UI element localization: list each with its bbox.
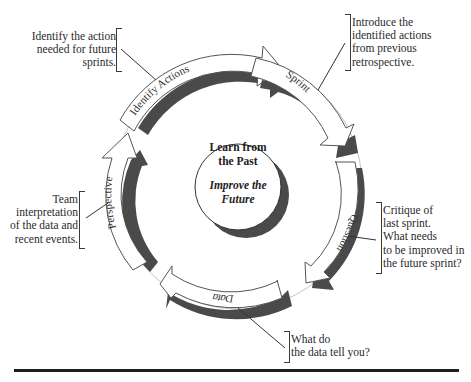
stage-arrow-question: Question [305,162,365,290]
leader-line-sprint [318,43,345,90]
bracket-perspective [79,191,85,249]
stage-arrow-identify-actions: Identify Actions [120,46,292,135]
callout-perspective: Team interpretation of the data and rece… [0,193,84,246]
callout-data: What do the data tell you? [285,333,411,359]
stage-label-data: Data [211,292,234,306]
leader-line-identify-actions [121,49,156,80]
bottom-rule [14,369,459,372]
callout-sprint: Introduce the identified actions from pr… [346,16,471,69]
bracket-identify-actions [116,28,122,72]
stage-arrow-data: Data [160,266,292,319]
callout-identify-actions: Identify the action needed for future sp… [2,30,122,70]
center-title: Learn from the Past [190,140,286,168]
callout-question: Critique of last sprint. What needs to b… [377,204,471,270]
center-hub-text: Learn from the Past Improve the Future [190,140,286,206]
center-subtitle: Improve the Future [190,178,286,206]
stage-arrow-perspective: Perspective [101,133,158,272]
svg-text:Data: Data [211,292,234,306]
arrow-body [251,58,354,146]
